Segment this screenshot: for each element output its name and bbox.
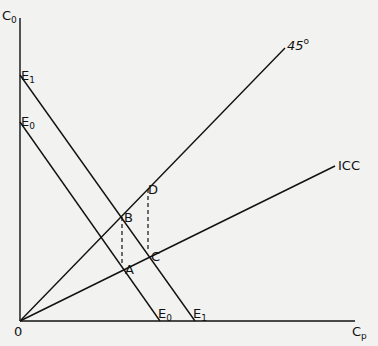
forty-five-label: 45o xyxy=(287,36,310,53)
budget-line-e1 xyxy=(20,75,195,321)
point-c-label: C xyxy=(151,249,160,264)
point-a-label: A xyxy=(125,262,134,277)
icc-label: ICC xyxy=(338,158,360,173)
consumption-diagram: C0 Cp 0 45o ICC E1 E0 E0 E1 A B C D xyxy=(0,0,378,346)
point-b-label: B xyxy=(124,210,133,225)
e1-top-label: E1 xyxy=(21,68,35,85)
point-d-label: D xyxy=(148,182,158,197)
x-axis-label: Cp xyxy=(352,324,367,341)
y-axis-label: C0 xyxy=(2,8,17,25)
origin-label: 0 xyxy=(14,324,22,339)
budget-line-e0 xyxy=(20,122,160,321)
e0-top-label: E0 xyxy=(21,114,35,131)
e0-bottom-label: E0 xyxy=(158,306,172,323)
e1-bottom-label: E1 xyxy=(193,306,207,323)
